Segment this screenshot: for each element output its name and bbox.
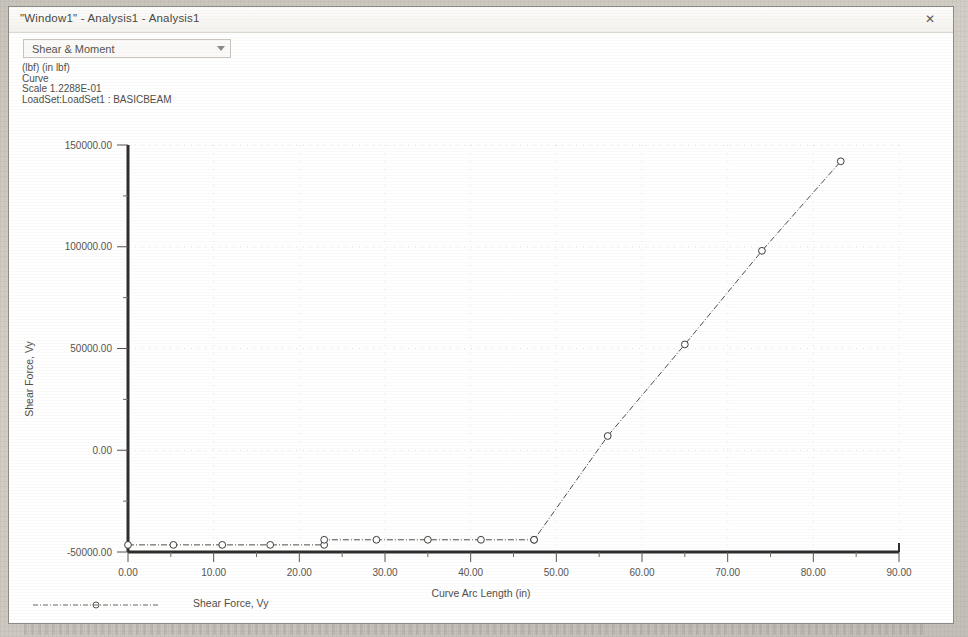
screenshot-root: "Window1" - Analysis1 - Analysis1 ✕ Shea… [0,0,968,637]
x-axis-tick-label: 30.00 [372,567,397,578]
x-axis-title: Curve Arc Length (in) [431,587,530,599]
series-point-marker [424,536,431,543]
close-icon[interactable]: ✕ [921,11,939,27]
plot-type-select[interactable]: Shear & Moment [23,39,231,58]
plot-type-select-value: Shear & Moment [32,43,115,55]
series-point-marker [219,541,226,548]
chart-series [125,158,845,548]
chart-tick-labels: -50000.000.0050000.00100000.00150000.000… [65,140,912,579]
x-axis-tick-label: 20.00 [287,567,312,578]
y-axis-tick-label: 0.00 [93,445,113,456]
window-titlebar: "Window1" - Analysis1 - Analysis1 ✕ [9,7,953,33]
series-point-marker [170,541,177,548]
x-axis-tick-label: 50.00 [544,567,569,578]
series-point-marker [478,536,485,543]
x-axis-tick-label: 10.00 [201,567,226,578]
x-axis-tick-label: 70.00 [715,567,740,578]
x-axis-tick-label: 90.00 [886,567,911,578]
x-axis-tick-label: 80.00 [801,567,826,578]
x-axis-tick-label: 40.00 [458,567,483,578]
legend-swatch-svg [31,599,161,611]
y-axis-tick-label: -50000.00 [67,547,112,558]
y-axis-tick-label: 50000.00 [70,343,112,354]
series-point-marker [321,536,328,543]
chart-legend: Shear Force, Vy [31,593,268,613]
legend-series-label: Shear Force, Vy [193,597,268,609]
info-scale: Scale 1.2288E-01 [22,84,172,95]
series-point-marker [373,536,380,543]
legend-series-swatch [31,597,161,609]
series-point-marker [837,158,844,165]
series-point-marker [531,536,538,543]
page-smudge-band [24,624,924,635]
chevron-down-icon [217,46,225,51]
chart-svg: -50000.000.0050000.00100000.00150000.000… [9,107,953,623]
y-axis-tick-label: 150000.00 [65,140,113,151]
y-axis-tick-label: 100000.00 [65,241,113,252]
chart-area: -50000.000.0050000.00100000.00150000.000… [9,107,953,623]
series-point-marker [125,541,132,548]
chart-grid [128,145,899,552]
series-line [128,161,841,545]
window-title: "Window1" - Analysis1 - Analysis1 [20,12,200,24]
series-point-marker [681,341,688,348]
info-units: (lbf) (in lbf) [22,63,172,74]
info-loadset: LoadSet:LoadSet1 : BASICBEAM [22,95,172,106]
y-axis-title: Shear Force, Vy [23,341,35,417]
series-point-marker [267,541,274,548]
plot-info-block: (lbf) (in lbf) Curve Scale 1.2288E-01 Lo… [22,63,172,105]
plot-window: "Window1" - Analysis1 - Analysis1 ✕ Shea… [8,6,954,624]
series-point-marker [604,433,611,440]
chart-axes [117,145,899,562]
series-point-marker [759,247,766,254]
x-axis-tick-label: 0.00 [118,567,138,578]
x-axis-tick-label: 60.00 [629,567,654,578]
